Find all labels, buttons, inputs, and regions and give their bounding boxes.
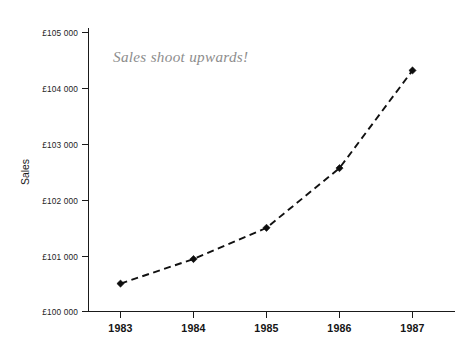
y-tick-label: £104 000 — [42, 84, 78, 94]
data-point-marker — [263, 224, 270, 231]
data-point-marker — [117, 280, 124, 287]
sales-series-line — [121, 70, 413, 283]
chart-annotation: Sales shoot upwards! — [113, 48, 248, 65]
y-tick-label: £105 000 — [42, 28, 78, 38]
x-tick-label: 1984 — [181, 322, 205, 334]
y-tick-group: £105 000 £104 000 £103 000 £102 000 £101… — [42, 28, 88, 317]
x-tick-label: 1985 — [254, 322, 278, 334]
y-tick-label: £101 000 — [42, 252, 78, 262]
y-tick-label: £100 000 — [42, 307, 78, 317]
x-tick-label: 1983 — [108, 322, 132, 334]
x-tick-label: 1986 — [327, 322, 351, 334]
chart-canvas: £105 000 £104 000 £103 000 £102 000 £101… — [0, 0, 467, 353]
y-tick-label: £103 000 — [42, 140, 78, 150]
x-tick-label: 1987 — [400, 322, 424, 334]
data-point-marker — [190, 255, 197, 262]
y-axis-title: Sales — [20, 159, 31, 185]
data-point-markers — [117, 67, 416, 287]
y-tick-label: £102 000 — [42, 196, 78, 206]
sales-line-chart: £105 000 £104 000 £103 000 £102 000 £101… — [0, 0, 467, 353]
x-tick-group: 1983 1984 1985 1986 1987 — [108, 312, 424, 335]
